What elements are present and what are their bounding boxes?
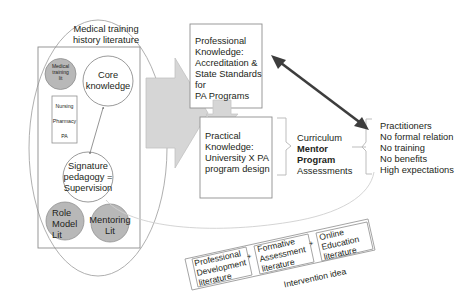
practical-knowledge-label: Practical Knowledge: University X PA pro… bbox=[205, 131, 277, 175]
practitioners-item-3: No benefits bbox=[380, 154, 473, 165]
ellipse-label: Medical training history literature bbox=[56, 24, 156, 46]
professional-knowledge-line2: Knowledge: bbox=[195, 47, 267, 58]
practitioners-item-0: Practitioners bbox=[380, 121, 473, 132]
practical-knowledge-line2: Knowledge: bbox=[205, 142, 277, 153]
role-model-lit-line1: Role bbox=[52, 208, 86, 219]
core-knowledge-label: Core knowledge bbox=[83, 70, 133, 92]
connector-dot-bottom bbox=[89, 152, 91, 154]
curriculum-left-bracket bbox=[277, 118, 291, 175]
professional-knowledge-label: Professional Knowledge: Accreditation & … bbox=[195, 36, 267, 102]
mentor-program-label: Mentor Program bbox=[297, 144, 367, 166]
curriculum-group-label: Curriculum Mentor Program Assessments bbox=[297, 133, 367, 177]
medical-training-lit-label: Medical training lit bbox=[45, 64, 76, 82]
pedagogy-to-core-connector bbox=[90, 108, 103, 153]
ellipse-label-line1: Medical training bbox=[56, 24, 156, 35]
diagram-canvas: Medical training history literature Medi… bbox=[0, 0, 473, 301]
role-model-lit-line3: Lit bbox=[52, 230, 86, 241]
profession-nursing: Nursing bbox=[52, 103, 77, 109]
practical-knowledge-line1: Practical bbox=[205, 131, 277, 142]
mentoring-lit-line2: Lit bbox=[87, 226, 133, 237]
professional-knowledge-line4: State Standards for bbox=[195, 69, 267, 91]
mentoring-lit-line1: Mentoring bbox=[87, 215, 133, 226]
practitioners-item-1: No formal relation bbox=[380, 132, 473, 143]
practitioners-item-4: High expectations bbox=[380, 165, 473, 176]
signature-pedagogy-line2: pedagogy = bbox=[58, 172, 118, 183]
mentoring-lit-label: Mentoring Lit bbox=[87, 215, 133, 237]
assessments-label: Assessments bbox=[297, 166, 367, 177]
role-model-lit-line2: Model bbox=[52, 219, 86, 230]
professional-knowledge-line1: Professional bbox=[195, 36, 267, 47]
signature-pedagogy-line3: Supervision bbox=[58, 183, 118, 194]
medical-training-lit-line3: lit bbox=[45, 76, 76, 82]
practical-knowledge-line4: program design bbox=[205, 164, 277, 175]
professions-list: Nursing Pharmacy PA bbox=[52, 103, 77, 139]
ellipse-label-line2: history literature bbox=[56, 35, 156, 46]
profession-pa: PA bbox=[52, 133, 77, 139]
signature-pedagogy-label: Signature pedagogy = Supervision bbox=[58, 161, 118, 194]
professional-knowledge-line3: Accreditation & bbox=[195, 58, 267, 69]
signature-pedagogy-line1: Signature bbox=[58, 161, 118, 172]
role-model-lit-label: Role Model Lit bbox=[52, 208, 86, 241]
practical-knowledge-line3: University X PA bbox=[205, 153, 277, 164]
profession-pharmacy: Pharmacy bbox=[52, 118, 77, 124]
core-knowledge-line2: knowledge bbox=[83, 81, 133, 92]
curriculum-label: Curriculum bbox=[297, 133, 367, 144]
core-knowledge-line1: Core bbox=[83, 70, 133, 81]
connector-dot-top bbox=[102, 107, 104, 109]
professional-knowledge-line5: PA Programs bbox=[195, 91, 267, 102]
practitioners-list: Practitioners No formal relation No trai… bbox=[380, 121, 473, 176]
practitioners-item-2: No training bbox=[380, 143, 473, 154]
